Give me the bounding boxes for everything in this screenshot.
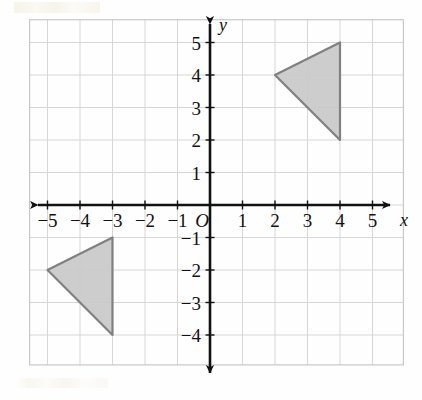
coordinate-graph: −5−4−3−2−11234554321−1−2−3−4 Oxy xyxy=(0,0,422,400)
x-tick-label: 2 xyxy=(270,210,280,231)
shaded-polygons xyxy=(48,43,341,336)
x-axis-label: x xyxy=(399,210,408,230)
x-tick-label: −3 xyxy=(102,210,122,231)
axis-names: Oxy xyxy=(195,15,408,231)
grid-lines xyxy=(30,20,404,365)
y-tick-label: 5 xyxy=(192,33,202,54)
origin-label: O xyxy=(195,210,209,231)
x-tick-label: 4 xyxy=(335,210,345,231)
y-tick-label: −3 xyxy=(181,293,201,314)
y-tick-label: 3 xyxy=(192,98,202,119)
x-tick-label: −5 xyxy=(37,210,57,231)
y-tick-label: −4 xyxy=(181,325,202,346)
grid-border xyxy=(30,20,404,365)
x-tick-label: −4 xyxy=(70,210,91,231)
coordinate-plane-figure: −5−4−3−2−11234554321−1−2−3−4 Oxy xyxy=(0,0,422,400)
y-tick-label: 2 xyxy=(192,130,202,151)
y-axis-label: y xyxy=(217,15,227,35)
x-tick-label: 3 xyxy=(303,210,313,231)
y-tick-label: 1 xyxy=(192,163,202,184)
x-tick-label: 1 xyxy=(238,210,248,231)
y-tick-label: 4 xyxy=(192,65,202,86)
y-tick-label: −2 xyxy=(181,260,201,281)
x-tick-label: −2 xyxy=(135,210,155,231)
x-tick-label: 5 xyxy=(368,210,378,231)
